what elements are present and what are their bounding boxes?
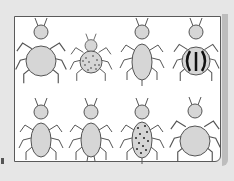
bug-8-round-plain <box>170 97 221 161</box>
bug-3-oval-tail <box>120 18 164 86</box>
bug-7-oval-dotted-tail <box>120 98 164 164</box>
bug-6-oval-rear-legs <box>69 98 113 161</box>
bug-2-round-dotted <box>70 34 112 81</box>
bug-illustration <box>0 0 234 181</box>
bug-1-round-plain <box>16 18 67 83</box>
bug-4-round-striped <box>173 18 219 81</box>
bug-5-oval-plain <box>19 98 63 160</box>
